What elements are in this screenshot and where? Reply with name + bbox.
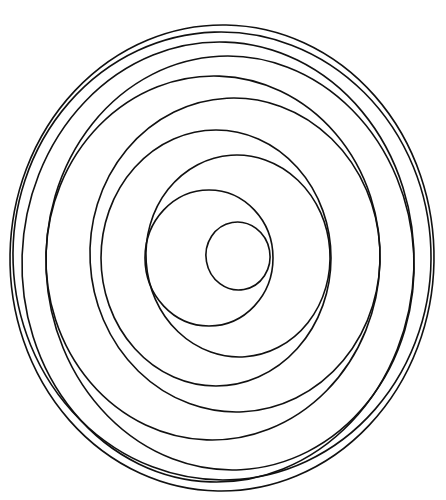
spiral-drawing — [0, 0, 446, 500]
background — [0, 0, 446, 500]
